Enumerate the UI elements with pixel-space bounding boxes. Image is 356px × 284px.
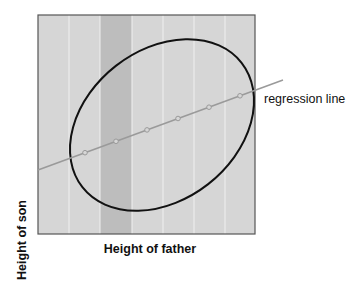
shaded-band [100, 15, 132, 234]
regression-line-label: regression line [264, 92, 345, 106]
x-axis-label: Height of father [60, 242, 240, 256]
y-axis-label: Height of son [12, 180, 32, 284]
